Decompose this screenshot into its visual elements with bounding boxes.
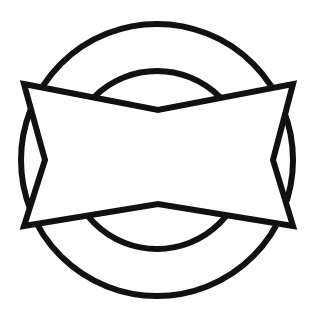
figure-canvas [0,0,319,328]
